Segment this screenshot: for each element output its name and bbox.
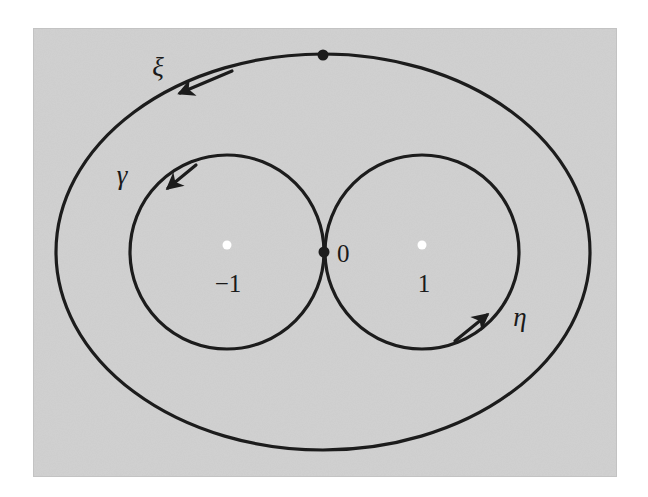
- label-eta: η: [513, 302, 526, 332]
- branch-point-minus-one-dot: [223, 241, 232, 250]
- figure-root: ξ γ η 0 −1 1: [0, 0, 648, 497]
- loop-diagram-svg: ξ γ η 0 −1 1: [0, 0, 648, 497]
- branch-point-one-dot: [418, 241, 427, 250]
- label-xi: ξ: [152, 52, 164, 82]
- label-gamma: γ: [117, 160, 129, 190]
- label-minus-one: −1: [215, 270, 242, 297]
- origin-dot: [319, 247, 330, 258]
- label-one: 1: [418, 270, 431, 297]
- basepoint-top-dot: [318, 50, 329, 61]
- label-origin: 0: [337, 240, 350, 267]
